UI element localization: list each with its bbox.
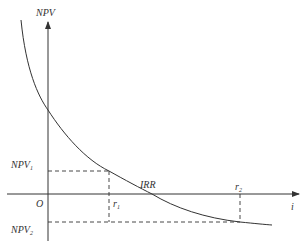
npv2-sub: 2 — [30, 230, 33, 236]
r1-sub: 1 — [117, 204, 120, 210]
origin-label: O — [36, 198, 43, 209]
npv2-label: NPV2 — [10, 224, 33, 236]
npv2-main: NPV — [10, 224, 32, 235]
irr-label: IRR — [139, 179, 156, 190]
npv1-main: NPV — [10, 159, 32, 170]
npv-irr-diagram: NPV i O NPV1 NPV2 r1 r2 IRR — [0, 0, 303, 250]
r2-label: r2 — [235, 181, 242, 193]
x-axis-label: i — [291, 201, 294, 212]
r1-label: r1 — [113, 198, 120, 210]
npv1-sub: 1 — [30, 165, 33, 171]
r2-sub: 2 — [239, 187, 242, 193]
npv1-label: NPV1 — [10, 159, 33, 171]
y-axis-label: NPV — [35, 7, 57, 18]
